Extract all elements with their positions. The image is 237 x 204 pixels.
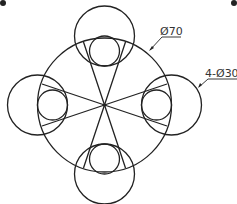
dimension-label-main: Ø70: [160, 25, 183, 38]
dimension-label-outer: 4-Ø30: [205, 67, 237, 80]
inner-circle-left: [38, 90, 68, 120]
inner-circle-bottom: [90, 144, 120, 174]
arrowhead-outer: [198, 83, 202, 88]
leader-line-outer: [199, 79, 237, 87]
inner-circle-top: [90, 36, 120, 66]
leader-line-main: [150, 37, 181, 50]
technical-drawing: Ø70 4-Ø30: [0, 0, 237, 204]
inner-circle-right: [142, 90, 172, 120]
center-point: [103, 103, 106, 106]
